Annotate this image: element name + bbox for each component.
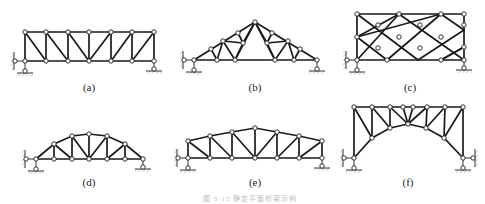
- truss-e: [174, 126, 330, 173]
- truss-f: [340, 105, 478, 173]
- truss-diagram-canvas: [0, 0, 485, 204]
- label-e: (e): [249, 176, 261, 188]
- support-d-left: [22, 150, 44, 174]
- truss-b-nodes: [192, 20, 319, 62]
- figure-caption: 图 3-15 静定平面桁架示例: [203, 193, 297, 203]
- label-c: (c): [404, 81, 416, 93]
- support-a-left: [11, 52, 33, 76]
- label-d: (d): [83, 176, 96, 188]
- label-a: (a): [83, 81, 95, 93]
- label-b: (b): [249, 81, 262, 93]
- truss-b: [180, 20, 325, 75]
- support-e-left: [174, 149, 196, 173]
- support-b-left: [180, 51, 202, 75]
- truss-d: [22, 132, 151, 174]
- truss-a: [11, 30, 162, 76]
- truss-c: [343, 12, 472, 75]
- label-f: (f): [403, 176, 414, 188]
